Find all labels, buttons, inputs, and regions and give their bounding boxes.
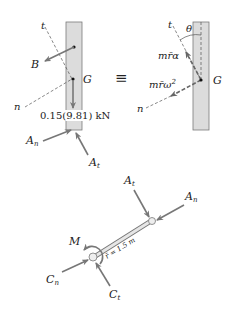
g-label: G	[83, 73, 92, 86]
kinetic-diagram: t θ mr̄α mr̄ω2 n G	[137, 19, 222, 130]
force-b-label: B	[30, 58, 39, 71]
link-force-at-arrow	[134, 190, 149, 217]
t-axis-label: t	[41, 20, 46, 31]
normal-inertia-label: mr̄ω2	[149, 78, 176, 90]
dynamics-diagram: t n B G 0.15(9.81) kN An At ≡ t θ	[0, 0, 229, 311]
link-free-body-diagram: At An M r̄ = 1.5 m Cn Ct	[46, 174, 198, 302]
g-point-kd	[199, 78, 202, 81]
force-at-label: At	[88, 156, 100, 170]
link-force-an-label: An	[184, 190, 198, 204]
n-axis-line	[25, 79, 72, 107]
link-force-ct-arrow	[96, 263, 110, 286]
link-force-at-label: At	[123, 174, 135, 188]
g-label-kd: G	[213, 74, 222, 87]
link-force-ct-label: Ct	[109, 288, 120, 302]
force-at-arrow	[76, 133, 88, 155]
n-axis-label-kd: n	[137, 103, 143, 114]
pin-c	[89, 253, 97, 261]
force-an-arrow	[43, 130, 71, 141]
link-force-cn-arrow	[62, 260, 88, 272]
link-force-an-arrow	[157, 205, 184, 220]
weight-label: 0.15(9.81) kN	[40, 110, 111, 121]
force-an-label: An	[25, 134, 39, 148]
equivalence-symbol: ≡	[115, 69, 128, 87]
moment-label: M	[68, 235, 81, 248]
free-body-diagram: t n B G 0.15(9.81) kN An At	[14, 20, 116, 170]
n-axis-label: n	[14, 101, 20, 112]
theta-label: θ	[186, 23, 192, 34]
link-force-cn-label: Cn	[46, 273, 59, 287]
tangential-inertia-label: mr̄α	[158, 50, 179, 61]
n-axis-line-kd	[146, 96, 171, 108]
t-axis-label-kd: t	[168, 19, 173, 30]
pin-a	[149, 218, 156, 225]
